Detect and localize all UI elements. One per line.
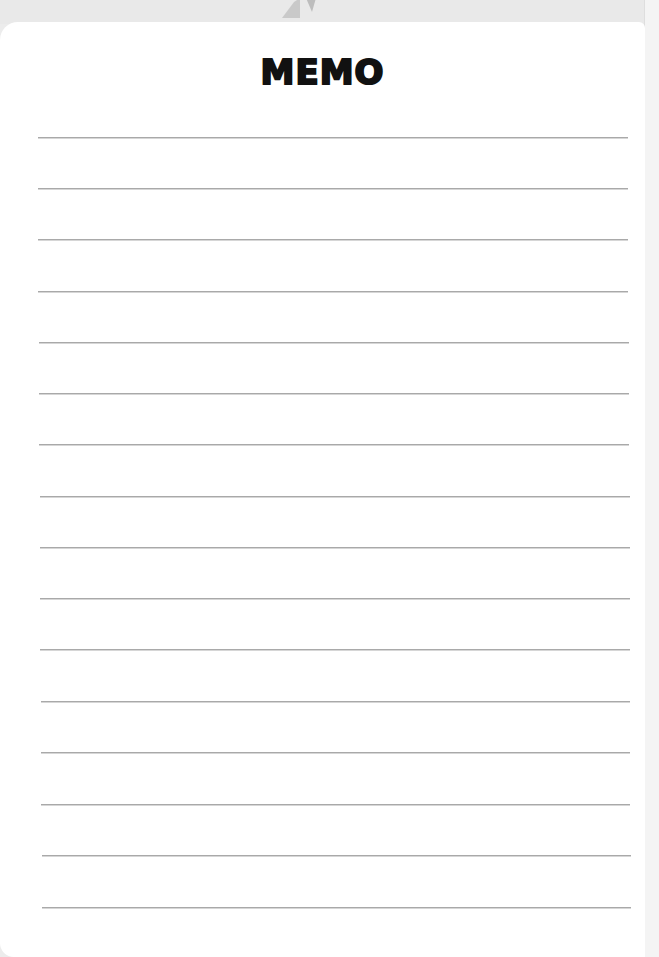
ruled-line xyxy=(40,547,630,548)
ruled-line xyxy=(39,393,629,394)
ruled-line xyxy=(38,137,628,138)
ruled-line xyxy=(41,804,630,805)
ruled-line xyxy=(38,188,628,189)
ruled-line xyxy=(42,855,631,856)
ruled-line xyxy=(40,598,630,599)
ruled-line xyxy=(41,752,630,753)
ruled-line xyxy=(40,649,630,650)
ruled-line xyxy=(41,701,630,702)
ruled-line xyxy=(39,444,629,445)
ruled-line xyxy=(38,239,628,240)
ruled-line xyxy=(38,291,628,292)
ruled-line xyxy=(39,342,629,343)
ruled-line xyxy=(42,907,631,908)
ruled-lines xyxy=(0,0,659,957)
ruled-line xyxy=(40,496,630,497)
